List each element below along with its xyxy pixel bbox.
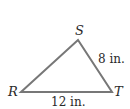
vertex-label-t: T [114,84,124,99]
side-label-st: 8 in. [98,52,125,66]
vertex-label-s: S [75,23,84,38]
side-label-rt: 12 in. [51,95,85,109]
triangle-rst [21,40,112,92]
triangle-diagram: S R T 8 in. 12 in. [0,0,130,109]
vertex-label-r: R [7,84,18,99]
